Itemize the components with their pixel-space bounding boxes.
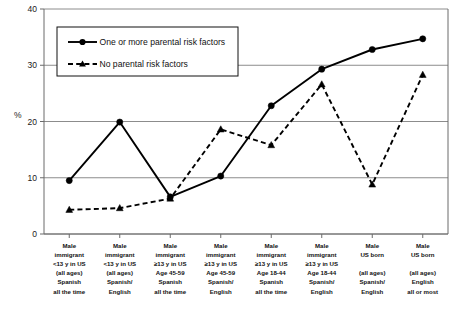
y-tick-label: 30 (28, 60, 38, 70)
x-category-label-line: all the time (154, 288, 186, 295)
y-tick-label: 40 (28, 4, 38, 14)
x-category-label: MaleUS born(all ages)Spanish/English (359, 242, 385, 295)
x-category-label-line: Male (365, 242, 379, 249)
x-category-label-line: Male (416, 242, 430, 249)
x-category-label-line: <13 y in US (103, 260, 136, 267)
x-category-label: MaleUS born(all ages)Englishall or most (407, 242, 438, 295)
data-point (268, 103, 274, 109)
x-category-label-line: Male (264, 242, 278, 249)
x-category-label-line: US born (411, 251, 435, 258)
x-category-label-line: Spanish (57, 278, 81, 285)
y-tick-label: 20 (28, 117, 38, 127)
x-tick-marks (69, 234, 423, 238)
x-category-label-line: English (109, 288, 131, 295)
x-category-label-line: immigrant (206, 251, 235, 258)
x-category-label-line: Spanish (259, 278, 283, 285)
legend-label: One or more parental risk factors (100, 37, 226, 47)
x-category-label-line: Spanish/ (208, 278, 234, 285)
x-category-label-line: (all ages) (359, 269, 385, 276)
x-category-label-line: Male (62, 242, 76, 249)
x-category-label: Maleimmigrant≥13 y in USAge 18-44Spanish… (306, 242, 338, 295)
data-point (66, 177, 72, 183)
x-category-label-line: English (311, 288, 333, 295)
x-category-label-line: <13 y in US (53, 260, 86, 267)
x-category-label-line: all or most (407, 288, 438, 295)
x-category-label-line: English (412, 278, 434, 285)
y-tick-labels: 010203040 (28, 4, 38, 239)
x-category-label-line: Age 18-44 (257, 269, 286, 276)
x-category-label: Maleimmigrant<13 y in US(all ages)Spanis… (103, 242, 136, 295)
x-category-label-line: Male (113, 242, 127, 249)
x-category-label-line: ≥13 y in US (205, 260, 237, 267)
chart-legend: One or more parental risk factorsNo pare… (57, 27, 238, 76)
x-category-label-line: immigrant (105, 251, 134, 258)
x-category-label-line: (all ages) (107, 269, 133, 276)
x-category-label-line: Age 45-59 (156, 269, 185, 276)
y-tick-marks (40, 9, 44, 234)
data-point (218, 173, 224, 179)
x-category-label-line: Spanish/ (107, 278, 133, 285)
x-category-label-line: immigrant (156, 251, 185, 258)
x-category-label-line: English (210, 288, 232, 295)
x-category-label-line: Age 45-59 (206, 269, 235, 276)
x-category-label-line: immigrant (307, 251, 336, 258)
legend-label: No parental risk factors (100, 59, 188, 69)
x-category-labels: Maleimmigrant<13 y in US(all ages)Spanis… (53, 242, 438, 295)
x-category-label-line: immigrant (257, 251, 286, 258)
y-tick-label: 0 (32, 229, 37, 239)
x-category-label-line: English (361, 288, 383, 295)
x-category-label-line: Male (214, 242, 228, 249)
x-category-label-line: Male (163, 242, 177, 249)
data-point (319, 66, 325, 72)
x-category-label-line: (all ages) (56, 269, 82, 276)
legend-marker (79, 39, 85, 45)
x-category-label-line: Spanish/ (309, 278, 335, 285)
data-point (369, 46, 375, 52)
line-chart: 010203040 % Maleimmigrant<13 y in US(all… (0, 0, 461, 318)
x-category-label-line: Male (315, 242, 329, 249)
data-point (117, 119, 123, 125)
y-axis-title: % (14, 110, 22, 120)
x-category-label: Maleimmigrant≥13 y in USAge 18-44Spanish… (255, 242, 288, 295)
x-category-label-line: immigrant (55, 251, 84, 258)
x-category-label-line: ≥13 y in US (154, 260, 186, 267)
x-category-label-line: ≥13 y in US (255, 260, 287, 267)
figure-caption (8, 305, 208, 316)
x-category-label: Maleimmigrant≥13 y in USAge 45-59Spanish… (205, 242, 237, 295)
x-category-label: Maleimmigrant≥13 y in USAge 45-59Spanish… (154, 242, 187, 295)
figure-container: 010203040 % Maleimmigrant<13 y in US(all… (0, 0, 461, 318)
x-category-label: Maleimmigrant<13 y in US(all ages)Spanis… (53, 242, 86, 295)
x-category-label-line: (all ages) (410, 269, 436, 276)
data-point (420, 36, 426, 42)
x-category-label-line: all the time (255, 288, 287, 295)
x-category-label-line: Age 18-44 (307, 269, 336, 276)
x-category-label-line: US born (360, 251, 384, 258)
x-category-label-line: all the time (53, 288, 85, 295)
x-category-label-line: Spanish (158, 278, 182, 285)
y-tick-label: 10 (28, 173, 38, 183)
x-category-label-line: ≥13 y in US (306, 260, 338, 267)
x-category-label-line: Spanish/ (360, 278, 386, 285)
